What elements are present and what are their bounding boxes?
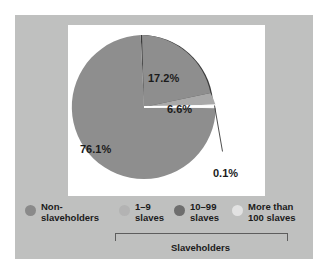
pie-label-76-1: 76.1% xyxy=(80,143,111,155)
chart-outer-panel: 17.2% 6.6% 76.1% 0.1% Non- slaveholders … xyxy=(15,15,313,259)
legend-swatch-icon xyxy=(119,205,130,216)
legend-swatch-icon xyxy=(25,205,36,216)
legend-item-more-than-100-slaves[interactable]: More than 100 slaves xyxy=(232,201,296,223)
slaveholders-bracket xyxy=(115,233,288,241)
leader-line-0-1 xyxy=(215,106,223,152)
legend-label-line2: slaves xyxy=(190,212,219,223)
pie-label-0-1: 0.1% xyxy=(213,167,238,179)
legend-swatch-icon xyxy=(174,205,185,216)
legend-item-label: 10–99 slaves xyxy=(190,201,219,223)
chart-legend: Non- slaveholders 1–9 slaves 10–99 slave… xyxy=(15,201,313,259)
legend-label-line1: Non- xyxy=(41,201,63,212)
legend-item-non-slaveholders[interactable]: Non- slaveholders xyxy=(25,201,99,223)
legend-label-line2: slaveholders xyxy=(41,212,99,223)
legend-swatch-icon xyxy=(232,205,243,216)
legend-label-line1: 1–9 xyxy=(135,201,151,212)
legend-item-label: More than 100 slaves xyxy=(248,201,296,223)
slaveholders-bracket-label: Slaveholders xyxy=(115,242,286,253)
legend-label-line2: slaves xyxy=(135,212,164,223)
legend-label-line1: More than xyxy=(248,201,293,212)
legend-item-label: Non- slaveholders xyxy=(41,201,99,223)
legend-label-line1: 10–99 xyxy=(190,201,216,212)
legend-item-1-9-slaves[interactable]: 1–9 slaves xyxy=(119,201,164,223)
legend-item-10-99-slaves[interactable]: 10–99 slaves xyxy=(174,201,219,223)
legend-label-line2: 100 slaves xyxy=(248,212,296,223)
figure-root: 17.2% 6.6% 76.1% 0.1% Non- slaveholders … xyxy=(0,0,333,273)
legend-item-label: 1–9 slaves xyxy=(135,201,164,223)
pie-label-17-2: 17.2% xyxy=(148,72,179,84)
pie-chart-graphic xyxy=(15,15,313,195)
pie-label-6-6: 6.6% xyxy=(167,103,192,115)
